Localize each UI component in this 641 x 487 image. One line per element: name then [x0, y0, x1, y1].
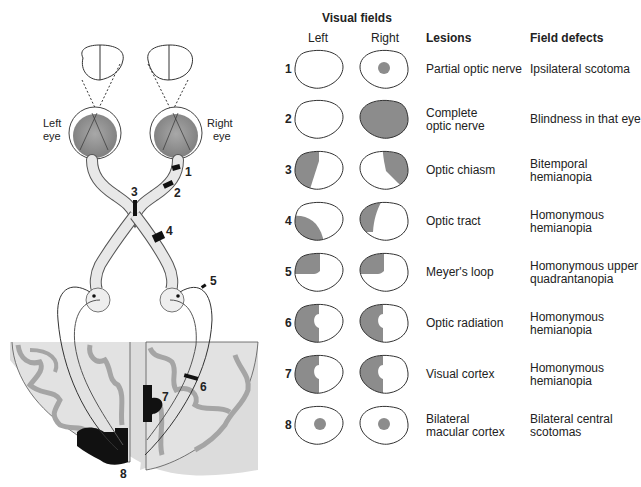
- lesion-name: Optic radiation: [426, 316, 503, 330]
- row-number: 3: [285, 163, 292, 177]
- column-left: Left: [308, 31, 328, 45]
- brain-section: [10, 342, 258, 476]
- lesion-3-marker: [133, 200, 137, 216]
- row-number: 7: [285, 367, 292, 381]
- lesion-name: Complete: [426, 106, 477, 120]
- visual-field-grid: [291, 50, 415, 444]
- row-number: 4: [285, 214, 292, 228]
- lesion-name: Optic tract: [426, 214, 481, 228]
- marker-label-3: 3: [131, 185, 138, 199]
- row-number: 2: [285, 112, 292, 126]
- field-defect: scotomas: [530, 425, 581, 439]
- eye-visual-field-left: [82, 45, 123, 112]
- row-number: 6: [285, 316, 292, 330]
- marker-label-2: 2: [174, 186, 181, 200]
- visual-field-left-row-2: [295, 100, 343, 138]
- marker-label-8: 8: [120, 467, 127, 481]
- right-eye-label: Righteye: [207, 117, 233, 143]
- right-eyeball: [150, 107, 202, 159]
- left-eyeball: [69, 107, 121, 159]
- lesion-name: macular cortex: [426, 425, 505, 439]
- visual-field-right-row-7: [355, 350, 408, 400]
- column-right: Right: [371, 31, 399, 45]
- visual-field-left-row-3: [291, 146, 343, 189]
- visual-field-left-row-6: [291, 299, 343, 349]
- lesion-name: optic nerve: [426, 119, 485, 133]
- visual-field-right-row-8: [360, 406, 408, 444]
- field-defect: Bitemporal: [530, 157, 587, 171]
- row-number: 5: [285, 265, 292, 279]
- field-defect: Ipsilateral scotoma: [530, 62, 630, 76]
- field-defect: hemianopia: [530, 374, 592, 388]
- marker-label-5: 5: [210, 274, 217, 288]
- lesion-name: Optic chiasm: [426, 163, 495, 177]
- visual-field-left-row-4: [291, 202, 343, 247]
- field-defect: Homonymous: [530, 361, 604, 375]
- visual-field-left-row-5: [291, 248, 343, 291]
- marker-label-7: 7: [162, 390, 169, 404]
- visual-field-left-row-7: [291, 350, 343, 400]
- field-defect: Homonymous: [530, 208, 604, 222]
- visual-field-right-row-2: [355, 95, 415, 145]
- visual-field-right-row-6: [355, 299, 408, 349]
- field-defect: Bilateral central: [530, 412, 613, 426]
- left-eye-label: Lefteye: [43, 117, 61, 143]
- field-defect: Blindness in that eye: [530, 112, 641, 126]
- column-field-defects: Field defects: [530, 31, 603, 45]
- lesion-name: Meyer's loop: [426, 265, 494, 279]
- lesion-5-marker: [201, 283, 207, 288]
- lesion-name: Visual cortex: [426, 367, 494, 381]
- lesion-name: Bilateral: [426, 412, 469, 426]
- visual-field-right-row-5: [355, 248, 408, 291]
- field-defect: hemianopia: [530, 221, 592, 235]
- marker-label-1: 1: [185, 165, 192, 179]
- field-defect: hemianopia: [530, 170, 592, 184]
- marker-label-4: 4: [166, 224, 173, 238]
- field-defect: hemianopia: [530, 323, 592, 337]
- visual-field-right-row-3: [360, 146, 415, 196]
- column-lesions: Lesions: [426, 31, 471, 45]
- field-defect: Homonymous upper: [530, 259, 638, 273]
- lesion-name: Partial optic nerve: [426, 62, 522, 76]
- visual-field-right-row-1: [360, 50, 408, 88]
- visual-fields-heading: Visual fields: [322, 11, 392, 25]
- visual-field-left-row-8: [295, 406, 343, 444]
- row-number: 8: [285, 418, 292, 432]
- marker-label-6: 6: [200, 380, 207, 394]
- eye-visual-field-right: [148, 45, 193, 112]
- visual-field-left-row-1: [295, 50, 343, 88]
- visual-field-right-row-4: [355, 197, 408, 240]
- field-defect: Homonymous: [530, 310, 604, 324]
- field-defect: quadrantanopia: [530, 272, 613, 286]
- row-number: 1: [285, 62, 292, 76]
